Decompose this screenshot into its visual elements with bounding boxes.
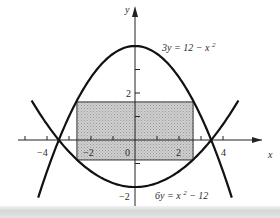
x-tick-label-neg4: −4 (37, 147, 48, 158)
x-tick-label-neg2: −2 (83, 147, 94, 158)
y-tick-label-neg2: −2 (119, 191, 130, 202)
bottom-edge-bar (0, 206, 280, 218)
x-axis-label: x (267, 149, 273, 160)
upper-curve-equation-label: 3y = 12 − x 2 (161, 41, 216, 53)
y-axis-label: y (124, 4, 130, 15)
figure-canvas: y x −4 −2 0 2 4 2 −2 3y = 12 − x 2 6y = … (0, 0, 280, 206)
y-axis-arrow-icon (132, 6, 138, 17)
x-tick-label-4: 4 (221, 147, 226, 158)
y-tick-label-2: 2 (126, 88, 131, 99)
x-tick-label-2: 2 (176, 147, 181, 158)
x-tick-label-0: 0 (125, 147, 130, 158)
x-axis-arrow-icon (252, 137, 262, 143)
lower-curve-equation-label: 6y = x 2 − 12 (155, 189, 208, 201)
